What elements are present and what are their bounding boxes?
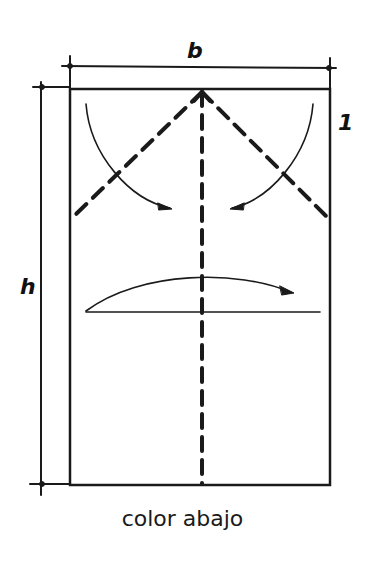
diagram-caption: color abajo bbox=[0, 506, 365, 531]
marker-label: 1 bbox=[338, 110, 353, 135]
fold-diagram bbox=[0, 0, 365, 569]
fold-lines bbox=[72, 92, 328, 484]
width-label: b bbox=[187, 38, 203, 63]
height-label: h bbox=[20, 274, 36, 299]
horizontal-fold-arrow bbox=[86, 277, 290, 311]
width-dimension-line bbox=[62, 66, 336, 68]
